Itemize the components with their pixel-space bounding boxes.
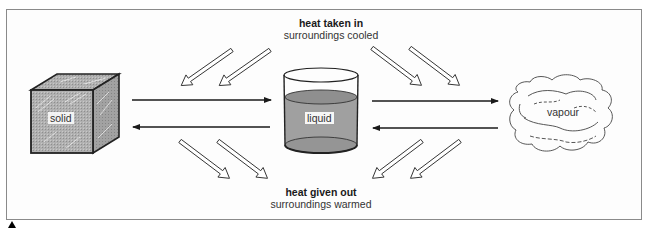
label-vapour: vapour <box>545 106 581 118</box>
diagram: heat taken in surroundings cooled heat g… <box>0 0 652 228</box>
solid-cube-icon <box>31 74 119 153</box>
caption-bottom-normal: surroundings warmed <box>226 198 416 210</box>
liquid-beaker-icon <box>284 68 358 153</box>
caption-top-bold: heat taken in <box>236 17 426 29</box>
caption-heat-taken-in: heat taken in surroundings cooled <box>236 17 426 41</box>
caption-heat-given-out: heat given out surroundings warmed <box>226 186 416 210</box>
triangle-marker-icon <box>8 221 16 228</box>
caption-top-normal: surroundings cooled <box>236 29 426 41</box>
label-liquid: liquid <box>305 112 334 124</box>
label-solid: solid <box>48 112 74 124</box>
caption-bottom-bold: heat given out <box>226 186 416 198</box>
